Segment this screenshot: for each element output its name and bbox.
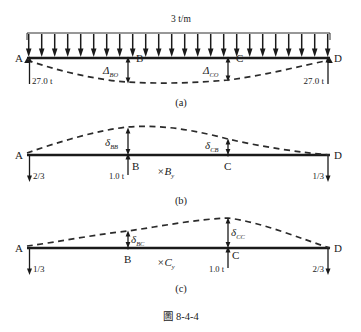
load-arrow bbox=[156, 34, 162, 57]
unit-load-label-b: 1.0 t bbox=[109, 171, 125, 181]
reaction-arrow-left-c bbox=[27, 249, 32, 275]
load-arrow bbox=[117, 34, 123, 57]
deflection-dim-C-b bbox=[226, 139, 231, 156]
node-label-B-a: B bbox=[136, 52, 143, 64]
load-arrow bbox=[260, 34, 266, 57]
node-label-B-c: B bbox=[124, 253, 131, 265]
panel-label-a: (a) bbox=[175, 97, 187, 109]
node-label-D-a: D bbox=[334, 52, 342, 64]
panel-c: A B C D 1/3 2/3 1.0 t bbox=[15, 218, 342, 296]
reaction-value-left-a: 27.0 t bbox=[32, 76, 53, 86]
node-label-D-b: D bbox=[334, 149, 342, 161]
unit-load-arrow-c bbox=[226, 246, 231, 268]
deflection-symbol-B-c: δBC bbox=[131, 233, 145, 247]
figure-page: 3 t/m bbox=[0, 0, 361, 332]
deflection-symbol-sub-C-a: CO bbox=[209, 71, 218, 78]
deflection-dim-B-c bbox=[126, 231, 131, 249]
deflection-dim-B-b bbox=[126, 128, 131, 156]
deflection-symbol-C-a: ΔCO bbox=[202, 64, 219, 78]
load-arrow bbox=[247, 34, 253, 57]
node-label-A-a: A bbox=[15, 52, 23, 64]
node-label-C-a: C bbox=[236, 52, 243, 64]
deflection-symbol-sub-B-a: BO bbox=[109, 71, 118, 78]
deflection-symbol-C-b: δCB bbox=[205, 139, 218, 153]
load-arrow bbox=[65, 34, 71, 57]
reaction-arrow-left-b bbox=[27, 156, 32, 182]
load-arrow bbox=[208, 34, 214, 57]
load-arrow bbox=[182, 34, 188, 57]
deflection-curve-b bbox=[27, 126, 330, 155]
load-arrow bbox=[143, 34, 149, 57]
node-label-A-b: A bbox=[15, 149, 23, 161]
reaction-value-left-b: 2/3 bbox=[33, 171, 45, 181]
deflection-curve-a bbox=[27, 60, 330, 83]
load-arrow bbox=[221, 34, 227, 57]
deflection-symbol-base-C-a: Δ bbox=[202, 64, 209, 76]
panel-label-b: (b) bbox=[175, 195, 188, 207]
beam-diagram-figure: 3 t/m bbox=[0, 0, 361, 332]
load-arrow bbox=[195, 34, 201, 57]
distributed-load-arrows bbox=[26, 34, 331, 57]
distributed-load-label: 3 t/m bbox=[171, 14, 191, 24]
deflection-symbol-C-c: δCC bbox=[231, 226, 245, 240]
panel-b: A B C D 2/3 1/3 1.0 t bbox=[15, 126, 342, 207]
load-arrow bbox=[312, 34, 318, 57]
node-label-D-c: D bbox=[334, 242, 342, 254]
reaction-value-right-a: 27.0 t bbox=[303, 76, 324, 86]
deflection-dim-C-a bbox=[226, 57, 231, 82]
deflection-symbol-B-b: δBB bbox=[105, 136, 118, 150]
load-arrow bbox=[39, 34, 45, 57]
load-arrow bbox=[52, 34, 58, 57]
redundant-label-sub-b: y bbox=[170, 172, 174, 179]
load-arrow bbox=[299, 34, 305, 57]
redundant-label-base-c: ×C bbox=[157, 256, 172, 268]
load-arrow bbox=[130, 34, 136, 57]
reaction-arrow-right-b bbox=[326, 156, 331, 182]
panel-a: 3 t/m bbox=[15, 14, 342, 109]
redundant-label-sub-c: y bbox=[171, 263, 175, 270]
deflection-dim-B-a bbox=[126, 57, 131, 84]
load-arrow bbox=[273, 34, 279, 57]
load-arrow bbox=[78, 34, 84, 57]
load-arrow bbox=[91, 34, 97, 57]
node-label-A-c: A bbox=[15, 242, 23, 254]
load-arrow bbox=[104, 34, 110, 57]
deflection-symbol-sub-B-b: BB bbox=[110, 143, 118, 150]
figure-caption: 圖 8-4-4 bbox=[163, 311, 199, 322]
reaction-value-left-c: 1/3 bbox=[33, 264, 45, 274]
unit-load-arrow-b bbox=[126, 153, 131, 175]
load-arrow bbox=[286, 34, 292, 57]
reaction-value-right-b: 1/3 bbox=[312, 171, 324, 181]
deflection-curve-c bbox=[27, 218, 330, 248]
redundant-label-base-b: ×B bbox=[157, 165, 171, 177]
deflection-symbol-sub-B-c: BC bbox=[136, 240, 145, 247]
redundant-label-b: ×By bbox=[157, 165, 174, 179]
redundant-label-c: ×Cy bbox=[157, 256, 175, 270]
deflection-dim-C-c bbox=[226, 218, 231, 249]
reaction-value-right-c: 2/3 bbox=[312, 264, 324, 274]
node-label-C-b: C bbox=[224, 160, 231, 172]
deflection-symbol-sub-C-c: CC bbox=[236, 233, 245, 240]
node-label-B-b: B bbox=[132, 160, 139, 172]
deflection-symbol-sub-C-b: CB bbox=[210, 146, 218, 153]
panel-label-c: (c) bbox=[175, 283, 187, 295]
unit-load-label-c: 1.0 t bbox=[209, 264, 225, 274]
load-arrow bbox=[169, 34, 175, 57]
node-label-C-c: C bbox=[232, 249, 239, 261]
reaction-arrow-right-c bbox=[326, 249, 331, 275]
deflection-symbol-B-a: ΔBO bbox=[102, 64, 118, 78]
deflection-symbol-base-B-a: Δ bbox=[102, 64, 109, 76]
